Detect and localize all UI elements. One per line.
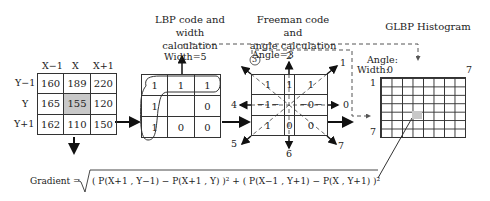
freeman-title-line1: Freeman code and — [248, 13, 338, 39]
col-header-x: X — [72, 60, 79, 71]
lbp-cell: 1 — [142, 96, 168, 117]
pixel-cell: 189 — [64, 74, 90, 94]
freeman-cell — [284, 95, 294, 115]
gradient-rhs: ( P(X+1 , Y−1) − P(X+1 , Y) )² + ( P(X−1… — [92, 176, 380, 186]
freeman-grid: 111 −1−−0− 100 — [251, 74, 328, 136]
freeman-cell: 1 — [252, 115, 285, 135]
pixel-cell: 160 — [38, 74, 64, 94]
dir-4: 4 — [231, 99, 237, 110]
dir-6: 6 — [286, 148, 292, 159]
histogram-grid — [380, 77, 466, 138]
freeman-cell: −0− — [295, 95, 328, 115]
freeman-cell: 1 — [295, 75, 328, 95]
pixel-cell: 220 — [90, 74, 116, 94]
lbp-width-label: Width=5 — [164, 51, 207, 62]
lbp-cell: 1 — [168, 75, 194, 96]
lbp-cell — [168, 96, 194, 117]
pixel-cell: 120 — [90, 94, 116, 114]
histogram-width-label: Width: — [357, 64, 389, 75]
histogram-y-start: 1 — [370, 77, 376, 88]
lbp-cell: 1 — [194, 75, 220, 96]
freeman-title: Freeman code and angle calculation — [248, 13, 338, 52]
freeman-cell: −1− — [252, 95, 285, 115]
dir-7: 7 — [338, 140, 344, 151]
lbp-title-line1: LBP code and width — [140, 13, 240, 39]
freeman-circled-3: 3 — [252, 55, 257, 64]
dir-2: 2 — [286, 50, 292, 61]
lbp-cell: 0 — [194, 96, 220, 117]
pixel-cell-center: 155 — [64, 94, 90, 114]
pixel-cell: 150 — [90, 114, 116, 134]
pixel-cell: 162 — [38, 114, 64, 134]
lbp-title: LBP code and width calculation — [140, 13, 240, 52]
histogram-title: GLBP Histogram — [383, 20, 473, 33]
pixel-cell: 165 — [38, 94, 64, 114]
row-header-ym1: Y−1 — [15, 77, 35, 88]
dir-0: 0 — [343, 99, 349, 110]
pixel-block-grid: 160189220 165155120 162110150 — [37, 73, 117, 135]
freeman-cell: 1 — [284, 75, 294, 95]
lbp-cell: 0 — [168, 117, 194, 138]
gradient-lhs: Gradient = — [30, 176, 81, 186]
histogram-x-end: 7 — [466, 64, 472, 75]
col-header-xm1: X−1 — [42, 60, 63, 71]
row-header-yp1: Y+1 — [14, 118, 34, 129]
freeman-cell: 0 — [295, 115, 328, 135]
row-header-y: Y — [22, 98, 28, 109]
freeman-cell: 0 — [284, 115, 294, 135]
pixel-cell: 110 — [64, 114, 90, 134]
lbp-cell: 1 — [142, 117, 168, 138]
freeman-cell: 1 — [252, 75, 285, 95]
lbp-cell: 1 — [142, 75, 168, 96]
lbp-cell: 0 — [194, 117, 220, 138]
dir-1: 1 — [340, 57, 346, 68]
lbp-grid: 111 10 100 — [141, 74, 221, 138]
col-header-xp1: X+1 — [93, 60, 114, 71]
dir-5: 5 — [231, 138, 237, 149]
histogram-highlight-cell — [412, 111, 422, 119]
histogram-x-start: 0 — [387, 64, 393, 75]
histogram-y-end: 7 — [370, 126, 376, 137]
